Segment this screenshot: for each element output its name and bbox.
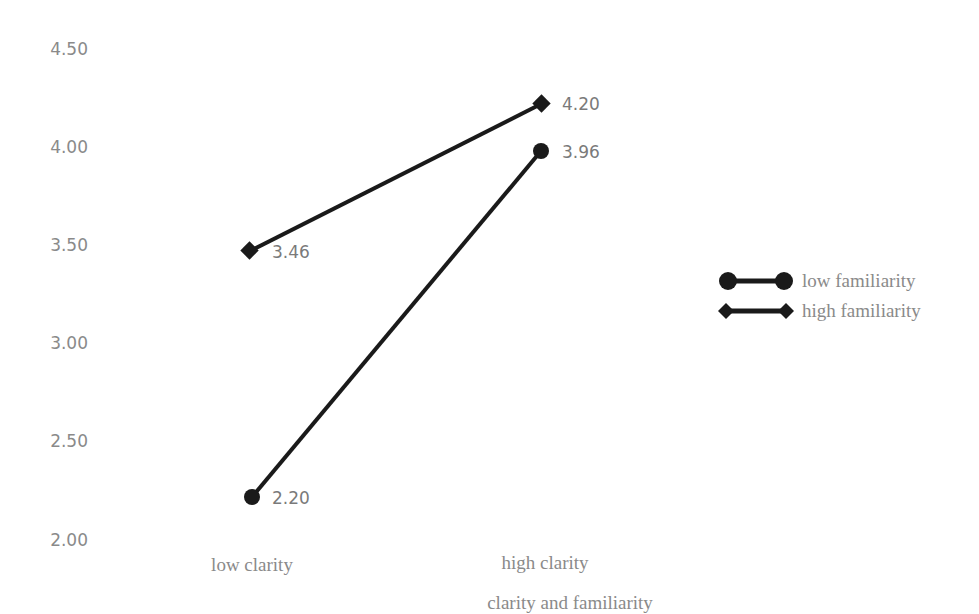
x-tick-label: high clarity [501, 552, 588, 574]
circle-line-icon [718, 269, 794, 293]
series-line-high-familiarity [250, 104, 541, 251]
legend-item-low-familiarity: low familiarity [718, 266, 921, 296]
data-label: 2.20 [272, 488, 310, 508]
diamond-marker [240, 241, 258, 259]
circle-marker [244, 489, 260, 505]
x-axis-title: clarity and familiarity [487, 592, 653, 614]
legend-item-high-familiarity: high familiarity [718, 296, 921, 326]
circle-marker [533, 143, 549, 159]
diamond-marker [532, 94, 550, 112]
legend-label: low familiarity [802, 270, 915, 292]
legend-label: high familiarity [802, 300, 921, 322]
data-label: 4.20 [562, 94, 600, 114]
data-label: 3.46 [272, 242, 310, 262]
x-tick-label: low clarity [211, 554, 293, 576]
diamond-line-icon [718, 299, 794, 323]
legend: low familiarity high familiarity [718, 266, 921, 326]
data-label: 3.96 [562, 142, 600, 162]
series-line-low-familiarity [252, 151, 541, 497]
